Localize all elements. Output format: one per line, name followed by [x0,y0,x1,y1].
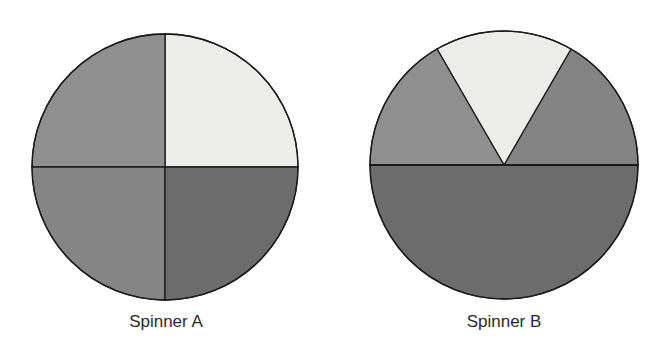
spinner-b-label: Spinner B [424,312,584,332]
spinner-a-sector-top-right [165,34,298,167]
spinner-a-sector-bottom-left [32,167,165,300]
spinners-figure [0,0,652,310]
spinner-b [370,31,638,299]
spinner-a [32,34,298,300]
spinner-a-sector-top-left [32,34,165,167]
spinner-a-label: Spinner A [86,312,246,332]
spinner-b-sector-bottom-half [370,165,638,299]
spinner-a-sector-bottom-right [165,167,298,300]
